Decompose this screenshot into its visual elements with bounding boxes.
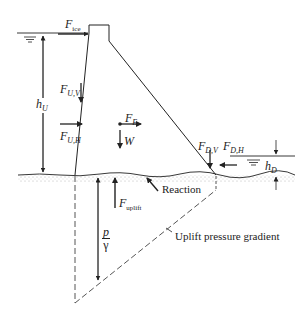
label-f-dh: FD,H [223,140,244,155]
label-f-dv: FD,V [198,140,218,155]
label-p-over-gamma: pγ [102,226,110,251]
label-f-uv: FU,V [60,83,80,98]
label-f-uplift: Fuplift [119,197,142,212]
label-reaction: Reaction [162,184,201,195]
label-uplift-pressure-gradient: Uplift pressure gradient [175,231,279,242]
diagram-drawing [0,0,295,317]
dam-outline [75,25,216,175]
dam-force-diagram: Fice FU,V FU,H hU FE W FD,V FD,H hD Fupl… [0,0,295,317]
label-f-e: FE [125,112,137,127]
label-w: W [124,135,134,147]
label-h-d: hD [265,160,277,175]
label-f-ice: Fice [65,18,81,33]
uplift-dashed-diagonal [75,190,216,303]
label-h-u: hU [36,98,48,113]
label-f-uh: FU,H [60,130,81,145]
